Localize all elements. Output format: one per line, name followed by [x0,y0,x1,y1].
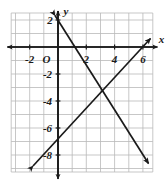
y-tick-label: -8 [43,149,53,161]
x-tick-label: -2 [25,53,35,65]
x-tick-label: 6 [140,53,146,65]
x-tick-label: 2 [83,53,90,65]
x-tick-label: 4 [111,53,118,65]
y-tick-label: 2 [46,14,53,26]
coordinate-graph: O x y -2 2 4 6 2 -2 -4 -6 -8 [0,0,167,183]
y-tick-label: -4 [43,95,53,107]
y-tick-label: -6 [43,122,53,134]
graph-screenshot: O x y -2 2 4 6 2 -2 -4 -6 -8 [0,0,167,183]
y-axis-name: y [62,5,69,17]
x-axis-name: x [158,33,165,45]
plot-area-background [11,13,153,172]
origin-label: O [43,53,51,65]
y-tick-label: -2 [43,68,53,80]
